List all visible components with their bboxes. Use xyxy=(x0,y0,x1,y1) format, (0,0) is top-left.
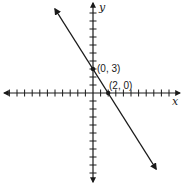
coordinate-plane: (0, 3) (2, 0) y x xyxy=(0,0,183,185)
x-axis-label: x xyxy=(172,95,179,108)
point-label-0-3: (0, 3) xyxy=(97,63,120,74)
graph-line xyxy=(55,9,156,169)
point-0-3 xyxy=(91,67,95,71)
point-label-2-0: (2, 0) xyxy=(109,80,132,91)
y-axis-label: y xyxy=(98,1,106,14)
point-2-0 xyxy=(106,91,110,95)
